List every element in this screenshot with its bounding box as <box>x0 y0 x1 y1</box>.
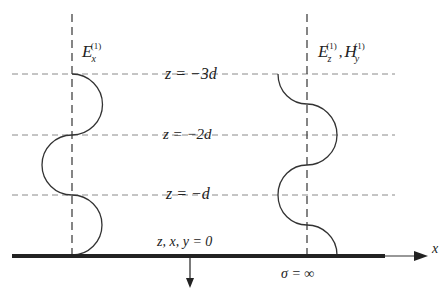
label-origin: z, x, y = 0 <box>156 234 212 249</box>
label-z-minus-2d: z = −2d <box>162 126 212 142</box>
label-z-minus-3d: z = −3d <box>164 65 218 82</box>
standing-wave-diagram: Ex(1) Ez(1),Hy(1) z = −3d z = −2d z = −d… <box>0 0 446 294</box>
label-x-axis: x <box>431 241 439 256</box>
ex-label: Ex(1) <box>81 41 101 64</box>
ez-hy-label: Ez(1),Hy(1) <box>317 41 365 64</box>
x-axis-arrowhead <box>414 251 428 261</box>
label-z-minus-d: z = −d <box>165 185 211 202</box>
label-sigma-infinity: σ = ∞ <box>281 266 314 281</box>
z-axis-arrowhead <box>186 278 194 288</box>
